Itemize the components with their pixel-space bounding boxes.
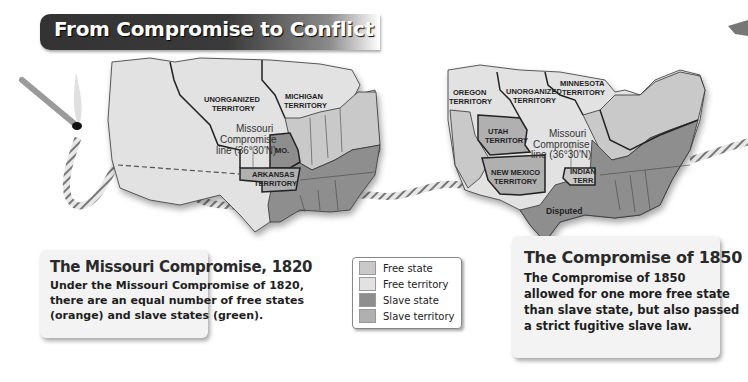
map-fragment — [728, 20, 748, 36]
label-unorganized-1820: UNORGANIZED — [204, 95, 260, 104]
swatch-slave-territory — [359, 309, 376, 323]
caption-1850-line: The Compromise of 1850 — [524, 270, 739, 286]
label-indian: INDIAN — [570, 167, 596, 176]
swatch-slave-state — [359, 293, 376, 307]
label-utah: UTAH — [488, 127, 508, 136]
caption-1850-line: a strict fugitive slave law. — [524, 318, 739, 334]
label-arkansas-2: TERRITORY — [254, 179, 297, 188]
match-icon — [22, 72, 82, 130]
label-arkansas: ARKANSAS — [252, 170, 295, 179]
caption-1820-body: Under the Missouri Compromise of 1820, t… — [50, 278, 304, 323]
label-mc-line-1850: Missouri — [549, 128, 586, 139]
label-indian-2: TERR. — [573, 176, 596, 185]
legend-label: Slave state — [383, 295, 439, 306]
caption-1820-line: there are an equal number of free states — [50, 293, 304, 308]
caption-1850-line: than slave state, but also passed — [524, 302, 739, 318]
label-michigan: MICHIGAN — [285, 92, 323, 101]
legend-item-free-territory: Free territory — [359, 277, 448, 291]
swatch-free-territory — [359, 277, 376, 291]
label-oregon: OREGON — [453, 88, 486, 97]
label-unorganized-1850: UNORGANIZED — [506, 87, 562, 96]
legend-label: Slave territory — [383, 311, 454, 322]
label-michigan-2: TERRITORY — [284, 101, 327, 110]
label-utah-2: TERRITORY — [485, 136, 528, 145]
label-oregon-2: TERRITORY — [449, 97, 492, 106]
label-unorganized-1820-2: TERRITORY — [212, 104, 255, 113]
legend-label: Free territory — [383, 279, 448, 290]
legend-item-free-state: Free state — [359, 261, 433, 275]
swatch-free-state — [359, 261, 376, 275]
label-mc-line-1820: Missouri — [236, 123, 273, 134]
legend-item-slave-territory: Slave territory — [359, 309, 454, 323]
caption-1850-title: The Compromise of 1850 — [524, 248, 742, 267]
label-mc-line-1820-3: line (36°30'N) — [216, 145, 276, 156]
label-mc-line-1820-2: Compromise — [220, 134, 277, 145]
caption-1820: The Missouri Compromise, 1820 Under the … — [40, 250, 208, 338]
caption-1850-line: allowed for one more free state — [524, 286, 739, 302]
legend-label: Free state — [383, 263, 433, 274]
caption-1850: The Compromise of 1850 The Compromise of… — [512, 236, 720, 358]
label-mc-line-1850-3: line (36°30'N) — [531, 149, 591, 160]
label-disputed: Disputed — [546, 206, 582, 216]
label-new-mexico-2: TERRITORY — [494, 177, 537, 186]
caption-1820-title: The Missouri Compromise, 1820 — [50, 258, 312, 276]
legend-item-slave-state: Slave state — [359, 293, 439, 307]
caption-1850-body: The Compromise of 1850 allowed for one m… — [524, 270, 739, 334]
label-minnesota: MINNESOTA — [560, 79, 605, 88]
label-missouri: MO. — [275, 146, 289, 155]
label-unorganized-1850-2: TERRITORY — [513, 96, 556, 105]
map-legend: Free state Free territory Slave state Sl… — [352, 257, 462, 329]
caption-1820-line: (orange) and slave states (green). — [50, 308, 304, 323]
label-new-mexico: NEW MEXICO — [491, 168, 540, 177]
caption-1820-line: Under the Missouri Compromise of 1820, — [50, 278, 304, 293]
label-minnesota-2: TERRITORY — [562, 88, 605, 97]
rope-fuse-right — [690, 142, 748, 160]
